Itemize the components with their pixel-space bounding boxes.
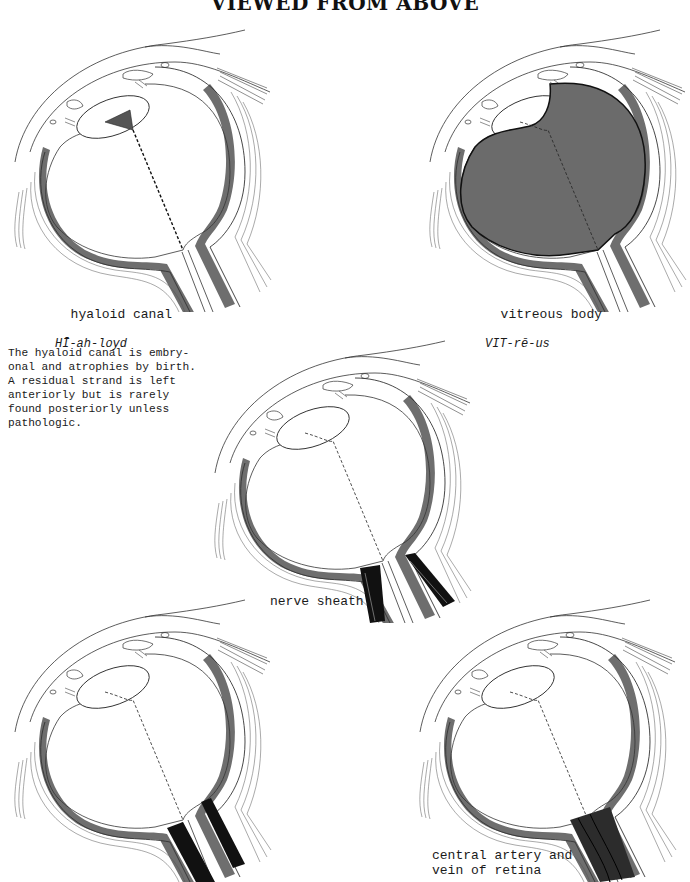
- label-hyaloid-canal: hyaloid canal: [71, 307, 172, 322]
- hyaloid-note: The hyaloid canal is embry- onal and atr…: [8, 346, 223, 430]
- pronunciation-vitreous: VIT-rē-us: [485, 337, 602, 351]
- hyaloid-canal-line: [133, 130, 183, 250]
- eye-diagram-dura: [5, 592, 285, 882]
- page-title: VIEWED FROM ABOVE: [0, 0, 690, 15]
- eye-diagram-hyaloid-canal: [5, 22, 285, 312]
- label-vitreous-body: vitreous body: [501, 307, 602, 322]
- eye-diagram-vitreous-body: [420, 22, 690, 312]
- eye-diagram-central-vessels: [410, 592, 690, 882]
- label-central-artery-vein: central artery and vein of retina: [432, 848, 572, 878]
- eye-diagram-nerve-sheath: [205, 333, 485, 623]
